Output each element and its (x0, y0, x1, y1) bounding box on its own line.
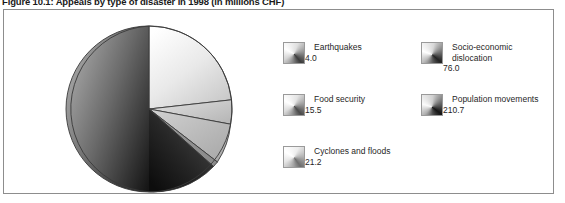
legend-label-group: Earthquakes 4.0 (305, 42, 362, 63)
legend-value: 21.2 (305, 157, 391, 168)
legend-value: 15.5 (305, 105, 365, 116)
legend-item-population-movements[interactable]: Population movements 210.7 (421, 94, 538, 116)
legend-label: Population movements (452, 94, 538, 105)
legend-swatch-food-security (283, 94, 305, 116)
legend-label: Food security (314, 94, 365, 105)
figure-frame: Earthquakes 4.0 Socio-economic dislocati… (3, 9, 554, 194)
legend-item-earthquakes[interactable]: Earthquakes 4.0 (283, 42, 362, 64)
pie-slice-population-movements-left (66, 26, 149, 192)
legend-label-group: Socio-economic dislocation 76.0 (443, 42, 512, 74)
legend-value: 210.7 (443, 105, 538, 116)
legend-label-line2: dislocation (452, 53, 512, 64)
legend-label: Cyclones and floods (314, 146, 391, 157)
pie-chart (63, 23, 235, 195)
pie-chart-svg (63, 23, 235, 195)
legend-swatch-population-movements (421, 94, 443, 116)
legend-value: 76.0 (443, 63, 512, 74)
page-title: Figure 10.1: Appeals by type of disaster… (2, 0, 562, 7)
legend-label-group: Food security 15.5 (305, 94, 365, 115)
legend-swatch-socio-economic-dislocation (421, 42, 443, 64)
legend-item-cyclones-and-floods[interactable]: Cyclones and floods 21.2 (283, 146, 391, 168)
legend-item-food-security[interactable]: Food security 15.5 (283, 94, 365, 116)
chart-legend: Earthquakes 4.0 Socio-economic dislocati… (283, 42, 555, 192)
legend-label-group: Population movements 210.7 (443, 94, 538, 115)
legend-swatch-cyclones-and-floods (283, 146, 305, 168)
legend-label: Earthquakes (314, 42, 362, 53)
pie-slice-socio-economic-dislocation (149, 26, 232, 109)
legend-label: Socio-economic (452, 42, 512, 53)
legend-item-socio-economic-dislocation[interactable]: Socio-economic dislocation 76.0 (421, 42, 512, 74)
legend-value: 4.0 (305, 53, 362, 64)
legend-label-group: Cyclones and floods 21.2 (305, 146, 391, 167)
legend-swatch-earthquakes (283, 42, 305, 64)
